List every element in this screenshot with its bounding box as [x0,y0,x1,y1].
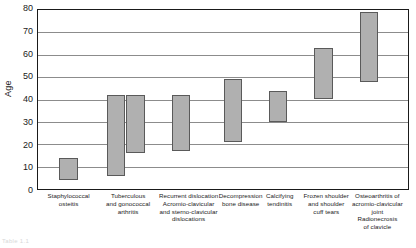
category-label: Tuberculousand gonococcalarthritis [98,192,158,215]
bars-layer [38,10,408,189]
range-bar [360,12,379,81]
range-bar [172,95,191,151]
category-label-line: Radionecrosis [346,215,409,223]
category-label-line: dislocations [152,215,225,223]
y-tick-label: 10 [23,163,33,172]
category-label: Osteoarthritis ofacromio-clavicularjoint… [346,192,409,231]
plot-area [37,9,409,190]
y-axis-tick-labels: 01020304050607080 [14,8,35,190]
bottom-caption: Table 1.1 [2,238,29,244]
range-bar [126,95,145,153]
y-tick-label: 80 [23,4,33,13]
category-label-line: and sterno-clavicular [152,208,225,216]
category-label-line: osteitis [39,200,99,208]
range-bar [314,48,333,99]
category-label-line: acromio-clavicular [346,200,409,208]
range-bar [224,79,243,142]
range-bar [269,91,288,122]
age-range-chart: Age 01020304050607080 Staphylococcaloste… [0,0,416,248]
range-bar [59,158,78,180]
category-label-line: Staphylococcal [39,192,99,200]
y-tick-label: 30 [23,117,33,126]
y-tick-label: 70 [23,26,33,35]
category-label-line: arthritis [98,208,158,216]
range-bar [107,95,126,176]
category-label-line: joint [346,208,409,216]
category-label: Staphylococcalosteitis [39,192,99,208]
category-label-line: Tuberculous [98,192,158,200]
y-tick-label: 50 [23,72,33,81]
y-axis-title: Age [3,83,13,97]
x-axis-category-labels: StaphylococcalosteitisTuberculousand gon… [37,192,409,244]
category-label-line: and gonococcal [98,200,158,208]
y-tick-label: 60 [23,49,33,58]
y-tick-label: 40 [23,95,33,104]
y-tick-label: 0 [28,186,33,195]
y-tick-label: 20 [23,140,33,149]
category-label-line: Osteoarthritis of [346,192,409,200]
category-label-line: of clavicle [346,223,409,231]
